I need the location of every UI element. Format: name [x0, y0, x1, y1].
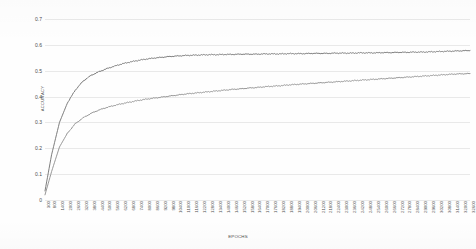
x-tick-label: 1400 [61, 201, 65, 211]
series-lines [45, 19, 470, 200]
x-tick-label: 15800 [251, 201, 255, 213]
x-tick-label: 27800 [408, 201, 412, 213]
x-axis-tick-labels: 3008001400200026003200380044005000560062… [45, 201, 470, 233]
x-tick-label: 26600 [393, 201, 397, 213]
x-tick-label: 20600 [314, 201, 318, 213]
x-tick-label: 24800 [369, 201, 373, 213]
y-tick-label: 0.2 [22, 145, 42, 151]
x-tick-label: 20000 [306, 201, 310, 213]
x-tick-label: 6800 [132, 201, 136, 211]
plot-area [45, 19, 470, 200]
x-tick-label: 2600 [77, 201, 81, 211]
x-tick-label: 30200 [440, 201, 444, 213]
accuracy-vs-epochs-chart: ACCURACY 00.10.20.30.40.50.60.7 30080014… [0, 0, 476, 249]
x-tick-label: 10400 [179, 201, 183, 213]
x-tick-label: 21800 [329, 201, 333, 213]
x-tick-label: 29000 [424, 201, 428, 213]
x-tick-label: 11000 [187, 201, 191, 213]
x-tick-label: 17000 [266, 201, 270, 213]
x-tick-label: 3200 [85, 201, 89, 211]
y-tick-label: 0.4 [22, 94, 42, 100]
x-tick-label: 25400 [377, 201, 381, 213]
x-tick-label: 29600 [432, 201, 436, 213]
x-tick-label: 9200 [164, 201, 168, 211]
x-tick-label: 6200 [124, 201, 128, 211]
x-tick-label: 32600 [472, 201, 476, 213]
x-tick-label: 23000 [345, 201, 349, 213]
x-tick-label: 13400 [219, 201, 223, 213]
y-tick-label: 0.3 [22, 119, 42, 125]
x-tick-label: 17600 [274, 201, 278, 213]
x-tick-label: 12800 [211, 201, 215, 213]
x-tick-label: 23600 [353, 201, 357, 213]
x-tick-label: 11600 [195, 201, 199, 213]
series-line-lower-curve [45, 73, 470, 195]
x-tick-label: 32000 [464, 201, 468, 213]
y-tick-label: 0.7 [22, 16, 42, 22]
y-tick-label: 0 [22, 197, 42, 203]
x-tick-label: 16400 [258, 201, 262, 213]
x-tick-label: 2000 [69, 201, 73, 211]
x-axis-title: EPOCHS [0, 234, 476, 239]
x-tick-label: 12200 [203, 201, 207, 213]
x-tick-label: 26000 [385, 201, 389, 213]
x-tick-label: 300 [47, 201, 51, 208]
x-tick-label: 28400 [416, 201, 420, 213]
series-line-upper-curve [45, 50, 470, 191]
y-tick-label: 0.1 [22, 171, 42, 177]
x-tick-label: 31400 [456, 201, 460, 213]
x-tick-label: 30800 [448, 201, 452, 213]
x-tick-label: 24200 [361, 201, 365, 213]
x-tick-label: 21200 [322, 201, 326, 213]
x-tick-label: 5000 [108, 201, 112, 211]
x-tick-label: 19400 [298, 201, 302, 213]
y-axis-tick-labels: 00.10.20.30.40.50.60.7 [22, 0, 42, 249]
x-tick-label: 18800 [290, 201, 294, 213]
x-tick-label: 9800 [172, 201, 176, 211]
x-tick-label: 7400 [140, 201, 144, 211]
x-tick-label: 800 [53, 201, 57, 208]
x-tick-label: 22400 [337, 201, 341, 213]
x-tick-label: 14000 [227, 201, 231, 213]
y-tick-label: 0.6 [22, 42, 42, 48]
x-tick-label: 8000 [148, 201, 152, 211]
x-tick-label: 18200 [282, 201, 286, 213]
x-tick-label: 8600 [156, 201, 160, 211]
x-tick-label: 15200 [243, 201, 247, 213]
x-tick-label: 27200 [401, 201, 405, 213]
x-tick-label: 5600 [116, 201, 120, 211]
x-tick-label: 14600 [235, 201, 239, 213]
x-tick-label: 3800 [93, 201, 97, 211]
y-tick-label: 0.5 [22, 68, 42, 74]
x-tick-label: 4400 [101, 201, 105, 211]
